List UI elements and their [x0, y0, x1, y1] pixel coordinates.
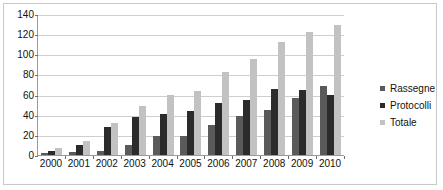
bar-rassegne-2007: [236, 116, 243, 155]
bar-protocolli-2000: [48, 151, 55, 155]
bar-totale-2003: [139, 106, 146, 155]
bar-rassegne-2009: [292, 98, 299, 155]
y-tickmark-0: [35, 156, 38, 157]
bar-protocolli-2010: [327, 95, 334, 155]
bar-group-2010: [316, 15, 344, 155]
x-tick-label-2005: 2005: [177, 158, 205, 169]
x-tick-label-2004: 2004: [149, 158, 177, 169]
x-tickmark-2010: [344, 156, 345, 159]
legend-swatch-totale-icon: [380, 120, 385, 125]
x-tick-label-2008: 2008: [260, 158, 288, 169]
x-axis-labels: 2000200120022003200420052006200720082009…: [37, 158, 344, 169]
legend-label-rassegne: Rassegne: [390, 84, 435, 94]
bar-group-2001: [66, 15, 94, 155]
y-tick-label-40: 40: [4, 111, 34, 121]
bar-rassegne-2005: [180, 136, 187, 155]
legend-swatch-protocolli-icon: [380, 103, 385, 108]
legend-item-totale[interactable]: Totale: [380, 114, 435, 131]
bar-protocolli-2007: [243, 100, 250, 155]
bar-totale-2004: [167, 95, 174, 155]
x-tick-label-2002: 2002: [93, 158, 121, 169]
x-tick-label-2010: 2010: [316, 158, 344, 169]
bar-group-2004: [149, 15, 177, 155]
bar-totale-2000: [55, 148, 62, 155]
bar-totale-2007: [250, 59, 257, 155]
bar-totale-2002: [111, 123, 118, 155]
x-tick-label-2003: 2003: [121, 158, 149, 169]
bar-protocolli-2009: [299, 90, 306, 155]
bar-protocolli-2002: [104, 127, 111, 155]
bar-rassegne-2010: [320, 86, 327, 155]
bar-group-2002: [94, 15, 122, 155]
bar-rassegne-2002: [97, 151, 104, 155]
bar-protocolli-2006: [215, 103, 222, 155]
bar-rassegne-2006: [208, 125, 215, 155]
bar-totale-2009: [306, 32, 313, 155]
bar-rassegne-2008: [264, 110, 271, 155]
bar-protocolli-2008: [271, 89, 278, 155]
bar-groups: [38, 15, 344, 155]
bar-group-2007: [233, 15, 261, 155]
bar-group-2008: [261, 15, 289, 155]
bar-group-2003: [121, 15, 149, 155]
x-tick-label-2007: 2007: [232, 158, 260, 169]
plot-area: 020406080100120140: [37, 15, 344, 156]
bar-group-2006: [205, 15, 233, 155]
y-tick-label-60: 60: [4, 91, 34, 101]
legend-item-rassegne[interactable]: Rassegne: [380, 80, 435, 97]
x-tick-label-2006: 2006: [204, 158, 232, 169]
y-tick-label-20: 20: [4, 131, 34, 141]
bar-totale-2005: [194, 91, 201, 155]
bar-totale-2001: [83, 141, 90, 155]
legend-label-protocolli: Protocolli: [390, 101, 431, 111]
chart-legend: RassegneProtocolliTotale: [380, 80, 435, 131]
bar-group-2005: [177, 15, 205, 155]
bar-group-2000: [38, 15, 66, 155]
bar-totale-2006: [222, 72, 229, 155]
legend-swatch-rassegne-icon: [380, 86, 385, 91]
bar-protocolli-2005: [187, 111, 194, 155]
bar-protocolli-2003: [132, 117, 139, 155]
bar-totale-2010: [334, 25, 341, 155]
bar-rassegne-2004: [153, 136, 160, 155]
y-tick-label-80: 80: [4, 70, 34, 80]
x-tick-label-2000: 2000: [37, 158, 65, 169]
legend-label-totale: Totale: [390, 118, 417, 128]
y-tick-label-100: 100: [4, 50, 34, 60]
bar-protocolli-2004: [160, 114, 167, 155]
bar-totale-2008: [278, 42, 285, 155]
y-tick-label-140: 140: [4, 10, 34, 20]
y-tick-label-120: 120: [4, 30, 34, 40]
chart-frame: 020406080100120140 200020012002200320042…: [3, 3, 437, 185]
bar-rassegne-2000: [41, 153, 48, 155]
x-tick-label-2001: 2001: [65, 158, 93, 169]
bar-group-2009: [288, 15, 316, 155]
bar-rassegne-2003: [125, 145, 132, 155]
x-tick-label-2009: 2009: [288, 158, 316, 169]
bar-protocolli-2001: [76, 145, 83, 155]
y-tick-label-0: 0: [4, 151, 34, 161]
legend-item-protocolli[interactable]: Protocolli: [380, 97, 435, 114]
bar-rassegne-2001: [69, 152, 76, 155]
